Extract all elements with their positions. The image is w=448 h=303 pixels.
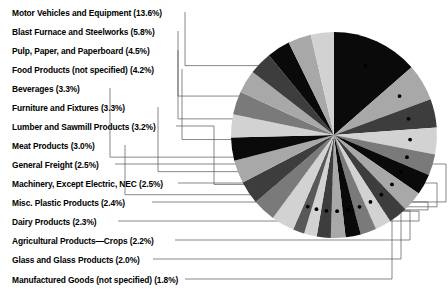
leader-dot-misc-plastic-products: [346, 208, 350, 212]
leader-dot-machinery-except-electric-nec: [358, 205, 362, 209]
leader-dot-blast-furnace-and-steelworks: [398, 94, 402, 98]
leader-dot-agricultural-products-crops: [324, 209, 328, 213]
leader-dot-general-freight: [369, 200, 373, 204]
pie-slice-group: [231, 32, 437, 238]
leader-dot-motor-vehicles-and-equipment: [364, 64, 368, 68]
leader-dot-furniture-and-fixtures: [399, 170, 403, 174]
leader-dot-dairy-products: [335, 209, 339, 213]
pie-chart-figure: Motor Vehicles and Equipment (13.6%) Bla…: [0, 0, 448, 303]
leader-dot-glass-and-glass-products: [315, 207, 319, 211]
leader-dot-food-products-not-specified: [408, 138, 412, 142]
leader-dot-manufactured-goods-not-specified: [306, 205, 310, 209]
leader-dot-pulp-paper-and-paperboard: [407, 117, 411, 121]
leader-dot-meat-products: [379, 193, 383, 197]
pie-and-leaders-svg: [0, 0, 448, 303]
leader-dot-lumber-and-sawmill-products: [390, 183, 394, 187]
leader-dot-beverages: [405, 155, 409, 159]
